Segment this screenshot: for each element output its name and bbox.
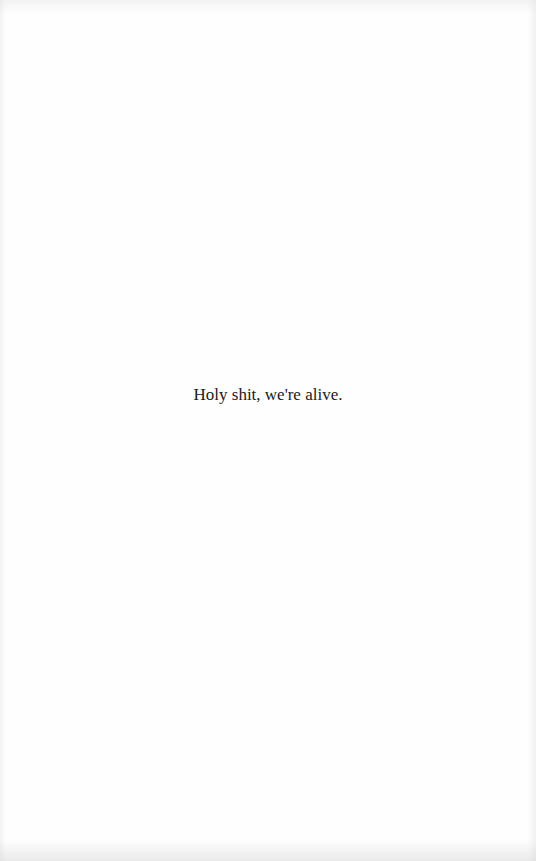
scan-edge-top [0, 0, 536, 14]
body-text-line: Holy shit, we're alive. [0, 385, 536, 405]
scan-edge-right [528, 0, 536, 861]
document-page: Holy shit, we're alive. [0, 0, 536, 861]
scan-edge-bottom [0, 839, 536, 861]
scan-edge-left [0, 0, 6, 861]
